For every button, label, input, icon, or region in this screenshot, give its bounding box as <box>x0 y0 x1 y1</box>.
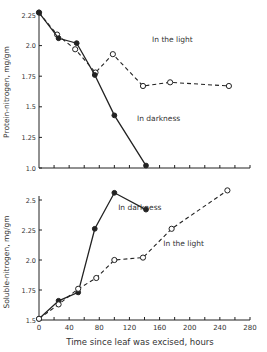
x-tick-label: 200 <box>183 324 196 332</box>
figure: 1.01.251.51.752.02.25Protein-nitrogen, m… <box>0 0 267 352</box>
open-marker <box>140 83 145 88</box>
filled-marker <box>92 226 97 231</box>
series-annotation: In the light <box>163 239 204 248</box>
series-line <box>39 13 229 86</box>
open-marker <box>168 80 173 85</box>
x-axis-label: Time since leaf was excised, hours <box>65 337 214 347</box>
x-tick-label: 40 <box>65 324 74 332</box>
y-tick-label: 1.5 <box>26 103 36 111</box>
series-in-darkness <box>37 10 149 168</box>
y-tick-label: 2.25 <box>22 12 36 20</box>
open-marker <box>226 83 231 88</box>
soluble-nitrogen-plot: 1.51.752.02.252.504080120160200240280Sol… <box>2 188 257 332</box>
x-tick-label: 80 <box>95 324 104 332</box>
filled-marker <box>74 41 79 46</box>
open-marker <box>76 286 81 291</box>
filled-marker <box>56 36 61 41</box>
series-line <box>39 193 146 319</box>
y-axis-label: Soluble-nitrogen, mg/gm <box>2 215 11 308</box>
series-annotation: In darkness <box>137 114 180 123</box>
open-marker <box>169 226 174 231</box>
x-tick-label: 0 <box>37 324 41 332</box>
filled-marker <box>37 10 42 15</box>
y-tick-label: 1.5 <box>26 317 36 325</box>
filled-marker <box>112 190 117 195</box>
y-axis-label: Protein-nitrogen, mg/gm <box>2 46 11 138</box>
open-marker <box>110 52 115 57</box>
protein-nitrogen-plot: 1.01.251.51.752.02.25Protein-nitrogen, m… <box>2 10 250 173</box>
filled-marker <box>92 73 97 78</box>
y-tick-label: 1.25 <box>22 134 36 142</box>
open-marker <box>36 316 41 321</box>
y-tick-label: 2.5 <box>26 197 36 205</box>
filled-marker <box>112 113 117 118</box>
y-tick-label: 1.0 <box>26 165 36 173</box>
y-tick-label: 1.75 <box>22 287 36 295</box>
y-tick-label: 2.25 <box>22 227 36 235</box>
x-tick-label: 120 <box>123 324 136 332</box>
open-marker <box>225 188 230 193</box>
open-marker <box>94 275 99 280</box>
x-tick-label: 280 <box>243 324 256 332</box>
open-marker <box>56 302 61 307</box>
open-marker <box>140 255 145 260</box>
series-annotation: In darkness <box>118 203 161 212</box>
y-tick-label: 1.75 <box>22 73 36 81</box>
filled-marker <box>144 163 149 168</box>
y-tick-label: 2.0 <box>26 42 36 50</box>
x-tick-label: 160 <box>153 324 166 332</box>
axes: 1.51.752.02.252.504080120160200240280 <box>22 196 257 332</box>
x-tick-label: 240 <box>213 324 226 332</box>
series-in-the-light <box>36 10 231 89</box>
open-marker <box>73 47 78 52</box>
open-marker <box>112 257 117 262</box>
y-tick-label: 2.0 <box>26 257 36 265</box>
series-annotation: In the light <box>152 35 193 44</box>
